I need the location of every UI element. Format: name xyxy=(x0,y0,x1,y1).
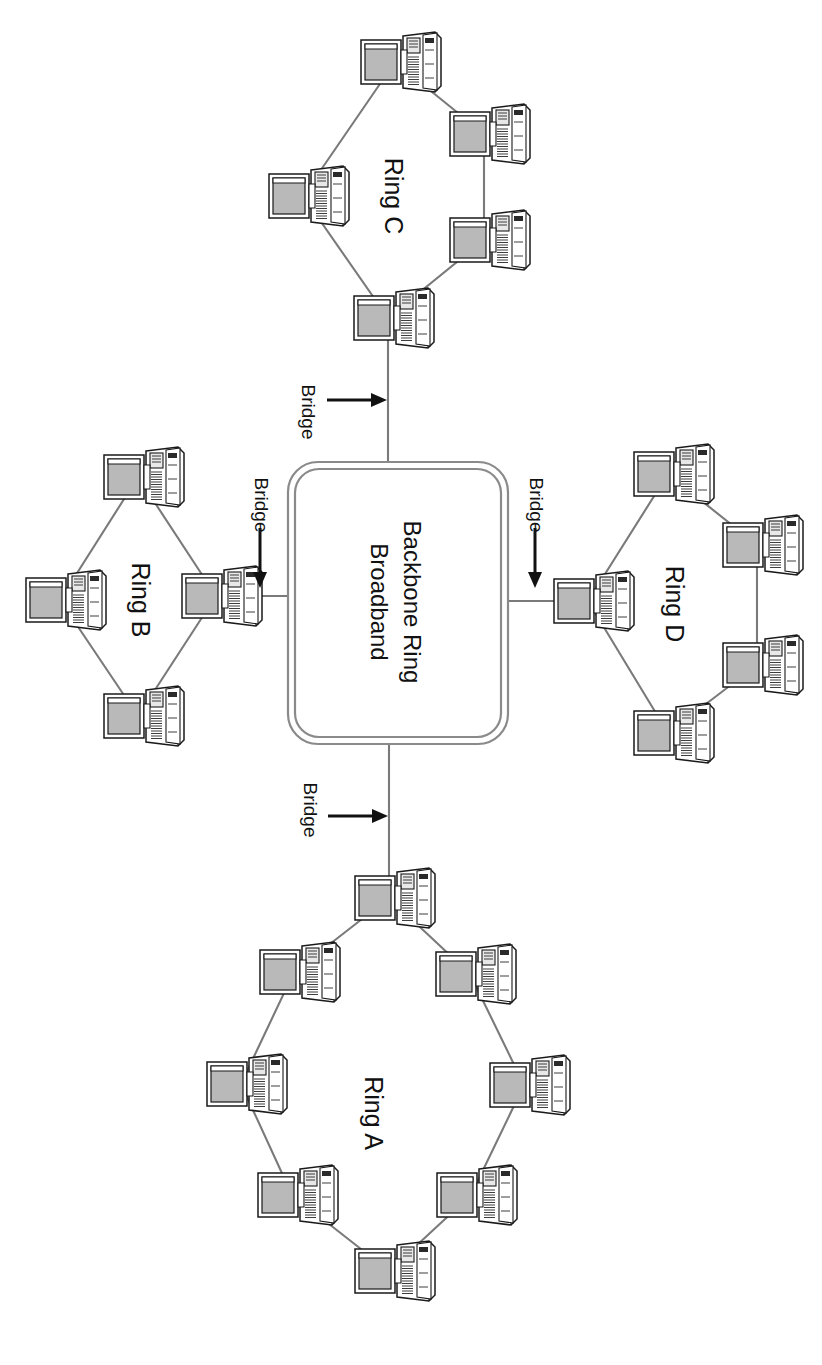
bridge-ring-c: Bridge xyxy=(298,385,387,440)
bridge-label: Bridge xyxy=(300,783,321,838)
workstation-icon[interactable] xyxy=(437,1165,517,1225)
workstation-icon[interactable] xyxy=(490,1055,570,1115)
bridge-arrow-right-icon xyxy=(327,393,387,407)
ring-b-label: Ring B xyxy=(127,562,155,637)
workstation-icon[interactable] xyxy=(269,166,349,226)
workstation-icon[interactable] xyxy=(26,570,106,630)
bridge-arrow-right-icon xyxy=(328,809,388,823)
workstation-icon[interactable] xyxy=(354,288,434,348)
workstation-icon[interactable] xyxy=(260,942,340,1002)
bridge-label: Bridge xyxy=(251,478,272,533)
workstation-icon[interactable] xyxy=(104,686,184,746)
bridge-arrow-down-icon xyxy=(528,528,542,588)
backbone-inner-border xyxy=(295,469,501,737)
workstation-icon[interactable] xyxy=(258,1165,338,1225)
workstation-icon[interactable] xyxy=(634,703,714,763)
workstation-icon[interactable] xyxy=(436,944,516,1004)
workstation-icon[interactable] xyxy=(207,1054,287,1114)
workstation-icon[interactable] xyxy=(723,515,803,575)
bridge-label: Bridge xyxy=(298,385,319,440)
workstation-icon[interactable] xyxy=(554,571,634,631)
workstation-icon[interactable] xyxy=(723,635,803,695)
backbone-label-line1: Broadband xyxy=(366,543,393,660)
workstation-icon[interactable] xyxy=(450,104,530,164)
workstation-icon[interactable] xyxy=(182,566,262,626)
ring-a-label: Ring A xyxy=(360,1076,388,1150)
workstation-icon[interactable] xyxy=(450,210,530,270)
topology-canvas: Broadband Backbone Ring xyxy=(0,0,822,1365)
workstation-icon[interactable] xyxy=(104,447,184,507)
network-topology-diagram: Broadband Backbone Ring xyxy=(0,0,822,1365)
workstation-icon[interactable] xyxy=(355,1241,435,1301)
bridge-ring-a: Bridge xyxy=(300,783,388,838)
workstation-icon[interactable] xyxy=(634,444,714,504)
workstation-icon[interactable] xyxy=(355,868,435,928)
bridge-ring-d: Bridge xyxy=(526,478,547,588)
ring-d-label: Ring D xyxy=(661,566,689,642)
bridge-label: Bridge xyxy=(526,478,547,533)
backbone-ring[interactable]: Broadband Backbone Ring xyxy=(288,462,508,744)
backbone-label-line2: Backbone Ring xyxy=(399,521,426,684)
workstation-icon[interactable] xyxy=(361,32,441,92)
ring-c-label: Ring C xyxy=(380,158,408,234)
